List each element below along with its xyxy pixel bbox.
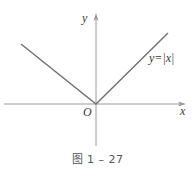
y-axis: [94, 13, 99, 146]
abs-function-line: [21, 33, 168, 104]
figure-caption: 图 1 – 27: [0, 150, 195, 166]
y-axis-label: y: [81, 11, 88, 25]
function-graph-figure: y x O y=|x| 图 1 – 27: [0, 0, 195, 181]
origin-label: O: [83, 105, 92, 119]
function-label: y=|x|: [148, 51, 174, 65]
x-axis-label: x: [179, 104, 186, 118]
